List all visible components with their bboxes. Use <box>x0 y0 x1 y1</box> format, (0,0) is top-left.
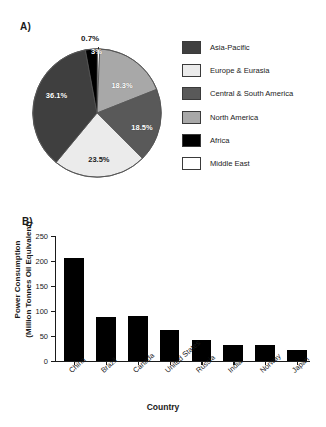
y-tick <box>51 311 56 312</box>
y-axis-title: Power Consumption (Million Tonnes Oil Eq… <box>13 220 34 340</box>
bar-plot-area: 050100150200250 ChinaBrazilCanadaUnited … <box>55 236 310 361</box>
legend-label: Central & South America <box>210 89 293 98</box>
bar <box>223 345 243 361</box>
y-axis-title-line2: (Million Tonnes Oil Equivalent) <box>23 220 34 340</box>
pie-chart: 0.7% 36.1% 18.3% 18.5% 23.5% 3% <box>31 47 163 179</box>
legend-item: North America <box>182 108 324 126</box>
y-tick-label: 50 <box>40 332 48 341</box>
pie-label-central-south-america: 18.5% <box>131 123 152 132</box>
y-tick <box>51 336 56 337</box>
legend-swatch <box>182 111 201 124</box>
pie-label-asia-pacific: 36.1% <box>46 90 67 99</box>
y-tick-label: 0 <box>44 357 48 366</box>
y-axis-line <box>55 236 56 361</box>
bar <box>64 258 84 361</box>
pie-label-north-america: 18.3% <box>111 80 132 89</box>
y-tick-label: 200 <box>35 257 48 266</box>
legend-item: Asia-Pacific <box>182 38 324 56</box>
pie-label-africa: 3% <box>91 47 102 56</box>
legend-swatch <box>182 64 201 77</box>
legend-swatch <box>182 41 201 54</box>
legend-label: Asia-Pacific <box>210 43 250 52</box>
y-tick-label: 150 <box>35 282 48 291</box>
legend-swatch <box>182 87 201 100</box>
y-tick <box>51 261 56 262</box>
x-axis-title: Country <box>0 402 326 412</box>
legend-label: North America <box>210 113 258 122</box>
legend-item: Middle East <box>182 155 324 173</box>
y-axis-title-line1: Power Consumption <box>13 220 24 340</box>
panel-a-pie-chart: A) 0.7% 36.1% 18.3% 18.5% 23.5% 3% Asia-… <box>0 0 326 212</box>
pie-callout-middle-east: 0.7% <box>81 34 99 43</box>
legend-swatch <box>182 157 201 170</box>
bar <box>96 317 116 361</box>
legend-label: Middle East <box>210 159 250 168</box>
legend-item: Central & South America <box>182 85 324 103</box>
legend-swatch <box>182 134 201 147</box>
pie-legend: Asia-PacificEurope & EurasiaCentral & So… <box>182 38 324 178</box>
y-tick-label: 100 <box>35 307 48 316</box>
pie-label-europe-eurasia: 23.5% <box>88 154 109 163</box>
y-tick <box>51 361 56 362</box>
y-tick-label: 250 <box>35 232 48 241</box>
panel-b-bar-chart: B) Power Consumption (Million Tonnes Oil… <box>0 212 326 427</box>
panel-a-label: A) <box>20 21 31 32</box>
legend-item: Europe & Eurasia <box>182 61 324 79</box>
y-tick <box>51 286 56 287</box>
legend-label: Africa <box>210 136 229 145</box>
legend-item: Africa <box>182 132 324 150</box>
y-tick <box>51 236 56 237</box>
legend-label: Europe & Eurasia <box>210 66 270 75</box>
